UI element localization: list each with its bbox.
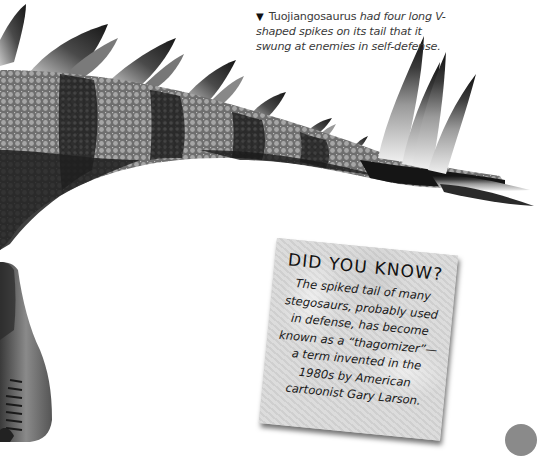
did-you-know-body: The spiked tail of many stegosaurs, prob… [268,273,449,412]
did-you-know-box: DID YOU KNOW? The spiked tail of many st… [259,238,458,441]
hind-leg [0,262,52,442]
image-caption: ▼ Tuojiangosaurus had four long V-shaped… [256,9,456,54]
caption-subject: Tuojiangosaurus [269,10,356,23]
page-number-tab [505,424,537,456]
caption-marker-icon: ▼ [256,11,264,22]
